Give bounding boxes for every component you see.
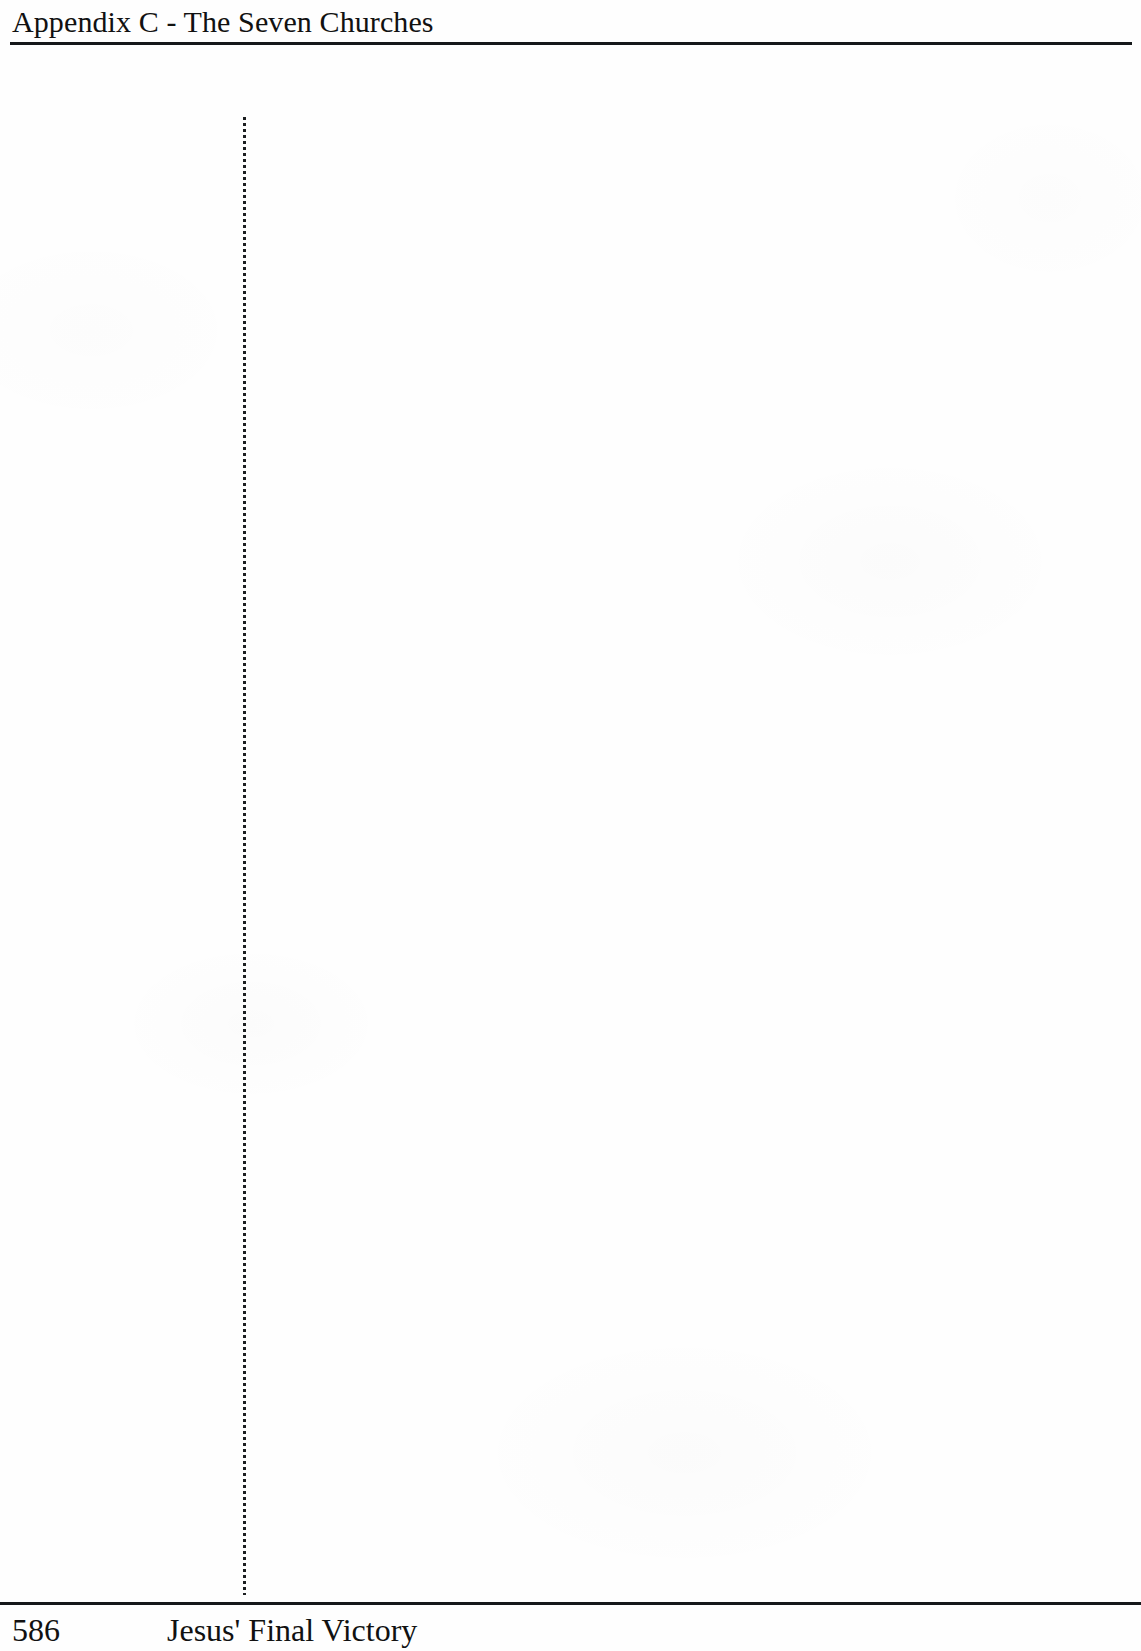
running-head: Appendix C - The Seven Churches xyxy=(12,2,434,42)
header-rule xyxy=(10,42,1132,45)
document-page: Appendix C - The Seven Churches 586 Jesu… xyxy=(0,0,1141,1651)
footer-rule xyxy=(0,1602,1141,1605)
page-body xyxy=(0,46,1141,1602)
vertical-dotted-rule xyxy=(243,117,246,1595)
page-number: 586 xyxy=(12,1609,60,1651)
running-foot-title: Jesus' Final Victory xyxy=(167,1609,417,1651)
